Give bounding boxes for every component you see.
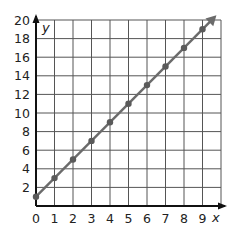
- x-tick-label: 8: [180, 211, 188, 226]
- y-tick-label: 14: [14, 68, 30, 83]
- y-tick-label: 10: [14, 106, 30, 121]
- x-tick-label: 3: [88, 211, 96, 226]
- x-tick-label: 9: [199, 211, 207, 226]
- x-axis-label: x: [211, 210, 220, 225]
- y-tick-label: 18: [14, 31, 30, 46]
- x-tick-label: 4: [106, 211, 114, 226]
- data-point: [33, 194, 39, 200]
- y-axis-arrow-icon: [33, 14, 40, 23]
- x-tick-labels: 0123456789: [32, 211, 207, 226]
- x-tick-label: 5: [125, 211, 133, 226]
- data-point: [70, 156, 76, 162]
- data-point: [125, 101, 131, 107]
- data-point: [144, 82, 150, 88]
- series-line: [36, 18, 214, 197]
- y-tick-label: 20: [14, 13, 30, 28]
- x-tick-label: 2: [69, 211, 77, 226]
- data-point: [51, 175, 57, 181]
- data-point: [199, 26, 205, 32]
- data-point: [181, 45, 187, 51]
- y-tick-label: 2: [22, 180, 30, 195]
- axes: [33, 14, 228, 210]
- x-axis-arrow-icon: [218, 203, 227, 210]
- y-tick-label: 16: [14, 50, 30, 65]
- data-point: [88, 138, 94, 144]
- x-tick-label: 1: [51, 211, 59, 226]
- x-tick-label: 7: [162, 211, 170, 226]
- y-tick-label: 6: [22, 143, 30, 158]
- y-tick-label: 4: [22, 161, 30, 176]
- x-tick-label: 6: [143, 211, 151, 226]
- data-point: [162, 63, 168, 69]
- data-point: [107, 119, 113, 125]
- x-tick-label: 0: [32, 211, 40, 226]
- y-tick-label: 12: [14, 87, 30, 102]
- grid-lines: [36, 20, 221, 206]
- y-tick-labels: 2468101214161820: [14, 13, 30, 195]
- y-axis-label: y: [41, 20, 50, 35]
- chart-canvas: 2468101214161820 0123456789 y x: [0, 0, 231, 232]
- data-series: [33, 15, 217, 200]
- y-tick-label: 8: [22, 124, 30, 139]
